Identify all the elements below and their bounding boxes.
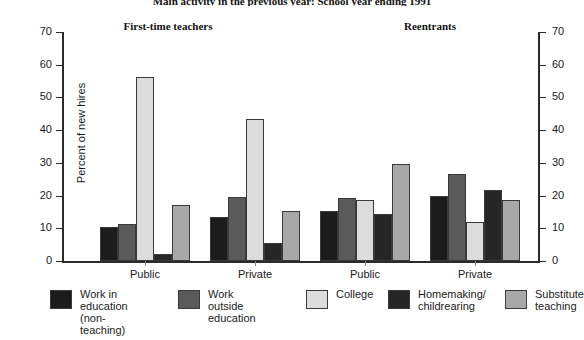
y-tick-left-label: 50 <box>26 91 52 102</box>
bar-group-0: Public <box>100 32 190 261</box>
y-tick-right-label: 70 <box>552 26 578 37</box>
chart-legend: Work in education (non-teaching)Work out… <box>50 289 580 337</box>
bar[interactable] <box>172 205 190 261</box>
chart-title: Main activity in the previous year: Scho… <box>0 0 584 6</box>
y-tick-right <box>540 97 546 98</box>
bar[interactable] <box>466 222 484 261</box>
bar[interactable] <box>320 211 338 261</box>
bar[interactable] <box>484 190 502 261</box>
x-axis-label-0: Public <box>100 268 190 280</box>
y-tick-left-label: 20 <box>26 190 52 201</box>
x-tick <box>365 261 366 266</box>
bar[interactable] <box>118 224 136 261</box>
bar[interactable] <box>210 217 228 261</box>
chart-figure: Main activity in the previous year: Scho… <box>0 0 584 340</box>
y-tick-left-label: 30 <box>26 157 52 168</box>
bar[interactable] <box>430 196 448 261</box>
bar[interactable] <box>136 77 154 261</box>
panel-header-first-time: First-time teachers <box>88 20 248 32</box>
x-tick <box>145 261 146 266</box>
y-axis-left <box>62 32 64 262</box>
y-tick-left <box>56 228 62 229</box>
legend-label: Substitute teaching <box>535 288 584 312</box>
y-tick-right-label: 50 <box>552 91 578 102</box>
bar[interactable] <box>374 214 392 261</box>
x-axis-label-1: Private <box>210 268 300 280</box>
legend-swatch-icon <box>306 290 328 309</box>
y-tick-left <box>56 163 62 164</box>
x-axis-label-2: Public <box>320 268 410 280</box>
bar[interactable] <box>100 227 118 261</box>
legend-label: Work in education (non-teaching) <box>80 288 128 336</box>
y-tick-right <box>540 65 546 66</box>
y-tick-left <box>56 196 62 197</box>
legend-swatch-icon <box>505 290 527 309</box>
legend-swatch-icon <box>178 290 200 309</box>
legend-label: Work outside education <box>208 288 256 324</box>
y-tick-left-label: 0 <box>26 255 52 266</box>
y-tick-right <box>540 261 546 262</box>
bar[interactable] <box>154 254 172 261</box>
bar[interactable] <box>356 200 374 261</box>
y-tick-right-label: 60 <box>552 59 578 70</box>
y-tick-left <box>56 130 62 131</box>
x-axis-label-3: Private <box>430 268 520 280</box>
y-tick-left <box>56 32 62 33</box>
y-tick-right-label: 30 <box>552 157 578 168</box>
panel-header-reentrants: Reentrants <box>350 20 510 32</box>
bar[interactable] <box>392 164 410 261</box>
y-tick-left-label: 40 <box>26 124 52 135</box>
bar[interactable] <box>338 198 356 261</box>
x-tick <box>475 261 476 266</box>
y-tick-right <box>540 163 546 164</box>
bar-group-1: Private <box>210 32 300 261</box>
y-tick-left-label: 60 <box>26 59 52 70</box>
legend-swatch-icon <box>50 290 72 309</box>
y-tick-right <box>540 130 546 131</box>
y-tick-right-label: 10 <box>552 222 578 233</box>
legend-swatch-icon <box>388 290 410 309</box>
y-tick-right-label: 0 <box>552 255 578 266</box>
bar[interactable] <box>264 243 282 261</box>
bar[interactable] <box>282 211 300 261</box>
y-tick-right-label: 40 <box>552 124 578 135</box>
y-tick-right <box>540 32 546 33</box>
x-tick <box>255 261 256 266</box>
y-tick-left <box>56 97 62 98</box>
bar[interactable] <box>228 197 246 261</box>
y-tick-left <box>56 261 62 262</box>
x-axis <box>62 261 540 263</box>
y-tick-left-label: 70 <box>26 26 52 37</box>
bar-group-2: Public <box>320 32 410 261</box>
plot-area: Percent of new hires 010203040506070 010… <box>62 32 540 261</box>
bar-group-3: Private <box>430 32 520 261</box>
y-tick-left-label: 10 <box>26 222 52 233</box>
y-axis-label: Percent of new hires <box>75 58 87 208</box>
legend-label: College <box>336 288 373 300</box>
y-tick-right <box>540 196 546 197</box>
y-tick-right <box>540 228 546 229</box>
bar[interactable] <box>502 200 520 262</box>
bar[interactable] <box>246 119 264 261</box>
bar[interactable] <box>448 174 466 261</box>
legend-label: Homemaking/ childrearing <box>418 288 486 312</box>
y-tick-right-label: 20 <box>552 190 578 201</box>
y-tick-left <box>56 65 62 66</box>
